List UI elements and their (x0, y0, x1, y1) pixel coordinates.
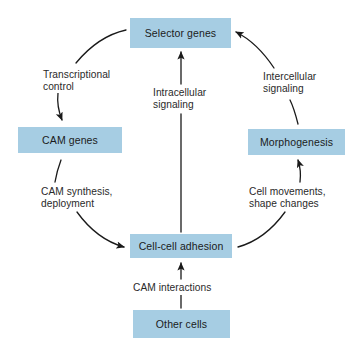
edge-label-intracellular-signaling: Intracellular signaling (150, 86, 209, 111)
node-selector-genes: Selector genes (130, 18, 231, 48)
edge-label-line-2: shape changes (249, 198, 326, 210)
edge-label-line-1: Transcriptional (43, 69, 110, 81)
edge-label-cell-movements: Cell movements, shape changes (247, 185, 328, 210)
edge-label-line-2: deployment (41, 198, 112, 210)
edge-label-line-1: CAM interactions (133, 282, 211, 294)
edge-label-cam-synthesis: CAM synthesis, deployment (39, 185, 114, 210)
node-morphogenesis: Morphogenesis (248, 129, 345, 155)
cell-adhesion-cycle-diagram: Selector genes CAM genes Morphogenesis C… (0, 0, 360, 345)
edge-label-line-2: signaling (153, 99, 206, 111)
edge-label-intercellular-signaling: Intercellular signaling (261, 70, 318, 95)
node-cam-genes: CAM genes (18, 127, 122, 153)
edge-label-line-1: Intracellular (153, 87, 206, 99)
edge-label-line-2: control (43, 81, 110, 93)
edge-label-line-1: Cell movements, (249, 186, 326, 198)
edge-label-line-1: Intercellular (263, 71, 316, 83)
node-cell-cell-adhesion: Cell-cell adhesion (130, 234, 232, 258)
edge-label-line-1: CAM synthesis, (41, 186, 112, 198)
edge-label-line-2: signaling (263, 83, 316, 95)
edge-label-cam-interactions: CAM interactions (130, 281, 214, 295)
edge-label-transcriptional-control: Transcriptional control (41, 68, 112, 93)
node-other-cells: Other cells (133, 310, 230, 338)
